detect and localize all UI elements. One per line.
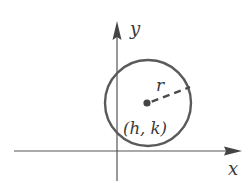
y-axis: [113, 21, 122, 181]
x-axis-arrow-icon: [224, 147, 242, 156]
center-point: [143, 99, 150, 106]
circle-diagram: y x r (h, k): [0, 0, 252, 196]
center-label: (h, k): [123, 119, 167, 138]
radius-label: r: [156, 75, 165, 95]
radius-line: [148, 87, 190, 103]
x-axis-label: x: [228, 158, 238, 179]
y-axis-label: y: [129, 18, 141, 39]
x-axis: [14, 147, 242, 156]
